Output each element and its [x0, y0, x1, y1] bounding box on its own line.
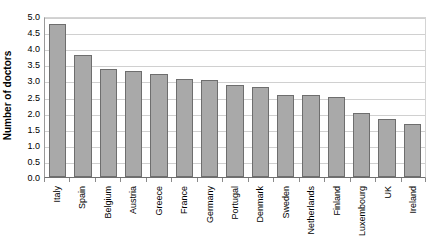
bar[interactable] — [252, 87, 269, 177]
y-axis-tick-label: 1.5 — [27, 126, 40, 135]
x-axis-label: Germany — [205, 186, 214, 223]
bar-slot — [298, 18, 323, 177]
bar-slot — [70, 18, 95, 177]
y-axis-title: Number of doctors — [0, 0, 16, 190]
x-axis-label: Greece — [154, 186, 163, 216]
x-axis-label-cell: Greece — [146, 184, 171, 246]
x-axis-label: UK — [383, 186, 392, 199]
x-axis-tick — [222, 178, 247, 183]
x-axis-tick — [44, 178, 69, 183]
bar-slot — [45, 18, 70, 177]
x-axis-label: Belgium — [103, 186, 112, 219]
x-axis-label-cell: Sweden — [273, 184, 298, 246]
bar-slot — [349, 18, 374, 177]
x-axis-tick — [69, 178, 94, 183]
x-axis-tick — [401, 178, 426, 183]
y-axis-tick-labels: 5.04.54.03.53.02.52.01.51.00.50.0 — [16, 12, 42, 184]
y-axis-tick-label: 2.0 — [27, 110, 40, 119]
x-axis-label: Portugal — [231, 186, 240, 220]
bar[interactable] — [150, 74, 167, 177]
bar[interactable] — [201, 80, 218, 177]
bar[interactable] — [277, 95, 294, 177]
x-axis-label: Sweden — [281, 186, 290, 219]
x-axis-label-cell: Netherlands — [299, 184, 324, 246]
y-axis-tick-label: 4.5 — [27, 29, 40, 38]
x-axis-label: France — [180, 186, 189, 214]
x-axis-label: Austria — [129, 186, 138, 214]
x-axis-label-cell: Finland — [324, 184, 349, 246]
x-axis-label-cell: Portugal — [222, 184, 247, 246]
bar-slot — [248, 18, 273, 177]
bar[interactable] — [49, 24, 66, 177]
x-axis-tick — [273, 178, 298, 183]
y-axis-tick-label: 4.0 — [27, 45, 40, 54]
x-axis-label-cell: Germany — [197, 184, 222, 246]
bar[interactable] — [378, 119, 395, 177]
x-axis-tick — [120, 178, 145, 183]
x-axis-tick — [350, 178, 375, 183]
x-axis-label: Ireland — [409, 186, 418, 214]
x-axis-label-cell: France — [171, 184, 196, 246]
bar-slot — [374, 18, 399, 177]
x-axis-label-cell: Ireland — [401, 184, 426, 246]
bar-chart: Number of doctors 5.04.54.03.53.02.52.01… — [0, 0, 438, 249]
x-axis-label: Netherlands — [307, 186, 316, 235]
y-axis-tick-label: 0.5 — [27, 158, 40, 167]
x-axis-tick — [324, 178, 349, 183]
x-axis-ticks — [44, 178, 426, 183]
bar[interactable] — [328, 97, 345, 178]
x-axis-tick-end — [425, 178, 426, 182]
x-axis-label-cell: Spain — [69, 184, 94, 246]
bar-slot — [146, 18, 171, 177]
x-axis-tick — [299, 178, 324, 183]
bars-layer — [45, 18, 425, 177]
x-axis-label-cell: Italy — [44, 184, 69, 246]
y-axis-tick-label: 5.0 — [27, 13, 40, 22]
bar[interactable] — [302, 95, 319, 177]
bar[interactable] — [226, 85, 243, 177]
bar-slot — [96, 18, 121, 177]
x-axis-label-cell: Luxembourg — [350, 184, 375, 246]
y-axis-tick-label: 3.5 — [27, 61, 40, 70]
x-axis-tick — [248, 178, 273, 183]
x-axis-label-cell: UK — [375, 184, 400, 246]
bar-slot — [121, 18, 146, 177]
bar-slot — [273, 18, 298, 177]
bar[interactable] — [125, 71, 142, 177]
x-axis-label: Spain — [78, 186, 87, 209]
bar-slot — [400, 18, 425, 177]
x-axis-tick — [197, 178, 222, 183]
x-axis-label-cell: Belgium — [95, 184, 120, 246]
bar[interactable] — [74, 55, 91, 177]
bar[interactable] — [353, 113, 370, 177]
y-axis-tick-label: 2.5 — [27, 94, 40, 103]
x-axis-tick — [375, 178, 400, 183]
y-axis-tick-label: 1.0 — [27, 142, 40, 151]
x-axis-label: Luxembourg — [358, 186, 367, 236]
bar[interactable] — [176, 79, 193, 177]
bar-slot — [172, 18, 197, 177]
bar-slot — [197, 18, 222, 177]
x-axis-tick — [146, 178, 171, 183]
bar-slot — [222, 18, 247, 177]
x-axis-label: Finland — [332, 186, 341, 216]
x-axis-tick — [171, 178, 196, 183]
y-axis-title-text: Number of doctors — [3, 50, 14, 139]
x-axis-label: Denmark — [256, 186, 265, 223]
x-axis-tick — [95, 178, 120, 183]
y-axis-tick-label: 0.0 — [27, 174, 40, 183]
x-axis-category-labels: ItalySpainBelgiumAustriaGreeceFranceGerm… — [44, 184, 426, 246]
x-axis-label-cell: Denmark — [248, 184, 273, 246]
bar-slot — [324, 18, 349, 177]
y-axis-tick-label: 3.0 — [27, 77, 40, 86]
bar[interactable] — [404, 124, 421, 177]
x-axis-label: Italy — [52, 186, 61, 203]
x-axis-label-cell: Austria — [120, 184, 145, 246]
bar[interactable] — [100, 69, 117, 177]
plot-area — [44, 17, 426, 178]
